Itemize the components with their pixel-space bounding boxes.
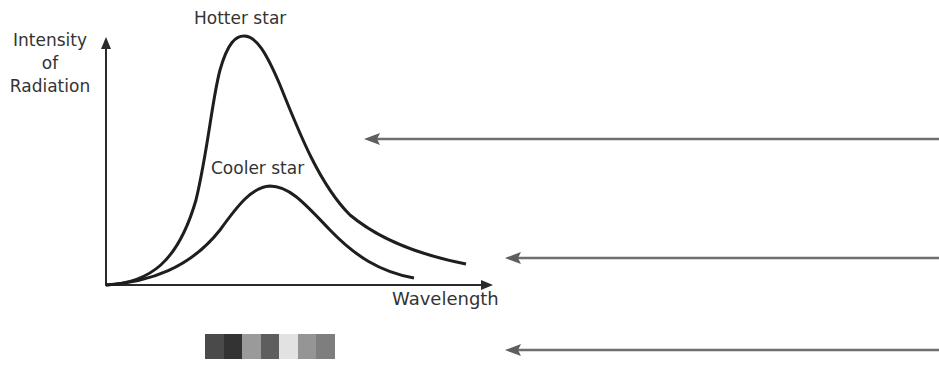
y-axis-label-line-3: Radiation [4, 75, 96, 98]
radiation-diagram [0, 0, 939, 377]
spectrum-swatch [261, 334, 280, 359]
x-axis-label: Wavelength [392, 288, 499, 309]
cooler-star-label: Cooler star [211, 158, 304, 178]
spectrum-swatch [279, 334, 298, 359]
spectrum-swatch [298, 334, 317, 359]
hotter-star-label: Hotter star [194, 8, 286, 28]
spectrum-swatch [205, 334, 224, 359]
y-axis-label: Intensity of Radiation [4, 29, 96, 98]
spectrum-swatch [316, 334, 335, 359]
y-axis-label-line-2: of [4, 52, 96, 75]
spectrum-strip [205, 334, 335, 359]
y-axis-label-line-1: Intensity [4, 29, 96, 52]
y-axis-arrowhead-icon [101, 37, 111, 49]
spectrum-swatch [224, 334, 243, 359]
spectrum-swatch [242, 334, 261, 359]
